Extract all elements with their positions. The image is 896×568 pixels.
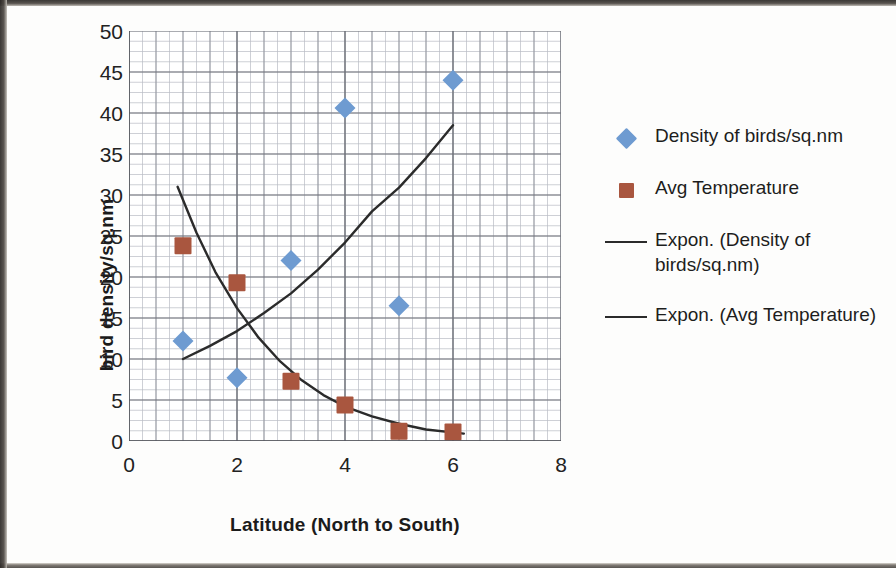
- x-tick-label: 0: [99, 454, 159, 475]
- y-tick-label: 25: [77, 226, 123, 247]
- legend-item-label: Avg Temperature: [655, 176, 799, 201]
- y-tick-label: 40: [77, 103, 123, 124]
- y-tick-label: 10: [77, 349, 123, 370]
- y-tick-label: 35: [77, 144, 123, 165]
- legend-item[interactable]: Avg Temperature: [603, 176, 887, 202]
- plot-svg: [129, 31, 561, 441]
- y-tick-label: 15: [77, 308, 123, 329]
- legend-item[interactable]: Expon. (Density of birds/sq.nm): [603, 228, 887, 277]
- y-axis-tick-labels: 05101520253035404550: [67, 31, 123, 441]
- y-tick-label: 5: [77, 390, 123, 411]
- trendline-group: [178, 125, 464, 433]
- trendline-icon: [603, 228, 649, 254]
- page-bottom-edge: [0, 563, 896, 568]
- x-axis-tick-labels: 02468: [129, 454, 561, 488]
- chart-legend: Density of birds/sq.nmAvg TemperatureExp…: [603, 124, 887, 355]
- x-tick-label: 2: [207, 454, 267, 475]
- y-tick-label: 30: [77, 185, 123, 206]
- trendline-icon-glyph: [605, 241, 647, 243]
- x-tick-label: 6: [423, 454, 483, 475]
- y-tick-label: 20: [77, 267, 123, 288]
- y-tick-label: 50: [77, 21, 123, 42]
- trendline-icon: [603, 303, 649, 329]
- diamond-marker-icon-glyph: [615, 127, 636, 148]
- legend-item[interactable]: Expon. (Avg Temperature): [603, 303, 887, 329]
- legend-item[interactable]: Density of birds/sq.nm: [603, 124, 887, 150]
- y-tick-label: 45: [77, 62, 123, 83]
- legend-item-label: Expon. (Avg Temperature): [655, 303, 876, 328]
- diamond-marker-icon: [603, 124, 649, 150]
- legend-item-label: Expon. (Density of birds/sq.nm): [655, 228, 887, 277]
- square-marker-icon-glyph: [619, 183, 634, 198]
- y-tick-label: 0: [77, 431, 123, 452]
- x-axis-title: Latitude (North to South): [129, 514, 561, 536]
- scanned-page: bird density/sq.nm 05101520253035404550 …: [0, 0, 896, 568]
- square-marker-icon: [603, 176, 649, 202]
- plot-area: [129, 31, 561, 441]
- chart-container: bird density/sq.nm 05101520253035404550 …: [7, 6, 896, 563]
- x-tick-label: 8: [531, 454, 591, 475]
- x-tick-label: 4: [315, 454, 375, 475]
- trendline-icon-glyph: [605, 316, 647, 318]
- legend-item-label: Density of birds/sq.nm: [655, 124, 843, 149]
